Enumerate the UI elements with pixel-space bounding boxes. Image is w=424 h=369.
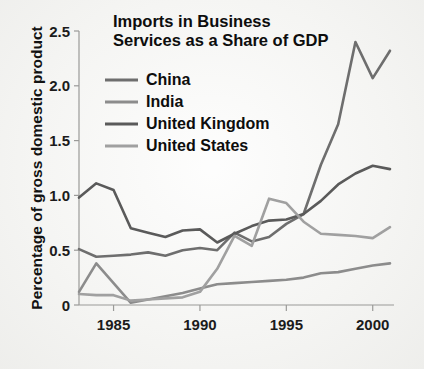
- chart-title-line-1: Imports in Business: [113, 12, 271, 30]
- legend-label-india: India: [146, 93, 183, 110]
- legend-label-united-states: United States: [146, 137, 248, 154]
- chart-figure: 00.51.01.52.02.51985199019952000 Imports…: [0, 0, 424, 369]
- x-tick-label: 1985: [97, 316, 130, 333]
- line-chart: 00.51.01.52.02.51985199019952000 Imports…: [0, 0, 424, 369]
- y-tick-label: 2.5: [49, 23, 70, 40]
- y-tick-label: 1.5: [49, 132, 70, 149]
- chart-title-line-2: Services as a Share of GDP: [113, 31, 329, 49]
- series-line-india: [79, 263, 390, 302]
- legend: ChinaIndiaUnited KingdomUnited States: [105, 71, 270, 154]
- y-tick-label: 1.0: [49, 187, 70, 204]
- legend-label-united-kingdom: United Kingdom: [146, 115, 270, 132]
- x-tick-label: 2000: [356, 316, 389, 333]
- x-tick-label: 1990: [183, 316, 216, 333]
- y-tick-label: 2.0: [49, 77, 70, 94]
- y-tick-label: 0: [62, 297, 70, 314]
- legend-label-china: China: [146, 71, 191, 88]
- axes: 00.51.01.52.02.51985199019952000: [49, 23, 394, 334]
- y-tick-label: 0.5: [49, 242, 70, 259]
- series-line-united-kingdom: [79, 166, 390, 243]
- chart-title-group: Imports in BusinessServices as a Share o…: [113, 12, 329, 49]
- y-axis-title: Percentage of gross domestic product: [28, 26, 45, 309]
- y-axis-title-group: Percentage of gross domestic product: [28, 26, 45, 309]
- x-tick-label: 1995: [270, 316, 303, 333]
